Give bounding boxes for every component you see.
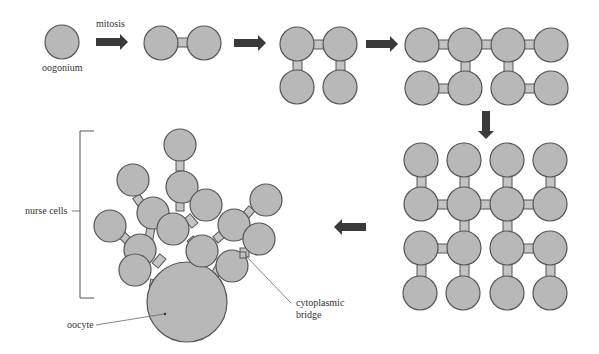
stage-cyst bbox=[94, 129, 282, 342]
arrow-right-icon bbox=[366, 36, 398, 52]
oogonium-label: oogonium bbox=[42, 62, 83, 73]
arrow-right-icon bbox=[234, 35, 266, 51]
stage-16-cells bbox=[403, 143, 567, 310]
mitosis-label: mitosis bbox=[96, 18, 125, 29]
nurse-cells-label: nurse cells bbox=[25, 205, 68, 216]
nurse-cells-bracket bbox=[72, 131, 94, 298]
stage-4-cells bbox=[280, 27, 357, 104]
stage-8-cells bbox=[405, 28, 568, 105]
arrow-right-icon bbox=[96, 34, 128, 50]
cytoplasmic-label: cytoplasmic bbox=[296, 297, 345, 308]
arrow-left-icon bbox=[334, 219, 366, 235]
oogenesis-diagram: .c{fill:#b8b8b8;stroke:#555;stroke-width… bbox=[0, 0, 599, 354]
bridge-label: bridge bbox=[296, 309, 322, 320]
arrow-down-icon bbox=[478, 111, 494, 139]
stage-1-oogonium bbox=[45, 25, 79, 59]
oocyte-label: oocyte bbox=[67, 319, 94, 330]
stage-2-cells bbox=[144, 26, 221, 60]
